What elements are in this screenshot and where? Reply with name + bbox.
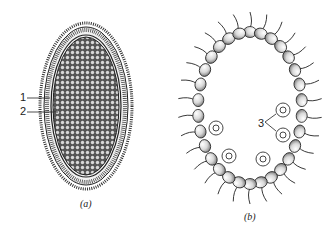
flagellated-cell (194, 77, 208, 92)
flagellum (283, 33, 295, 44)
flagellum (178, 98, 194, 100)
flagellum (273, 22, 282, 35)
flagellated-cell (293, 124, 307, 139)
caption-a: (a) (80, 198, 92, 210)
flagellum (218, 181, 227, 194)
daughter-colony (256, 152, 270, 166)
flagellum (194, 161, 208, 169)
flagellum (233, 186, 238, 201)
flagellum (306, 99, 322, 101)
flagellum (205, 33, 217, 44)
svg-text:1: 1 (20, 91, 26, 103)
flagellum (292, 47, 306, 55)
flagellated-cell (296, 109, 308, 123)
flagellated-cell (192, 93, 204, 107)
flagellum (218, 22, 227, 35)
flagellum (194, 47, 208, 55)
flagellum (299, 63, 314, 69)
flagellum (262, 15, 267, 30)
flagellum (283, 172, 295, 183)
flagellum (299, 147, 314, 153)
flagellum (303, 80, 319, 84)
svg-text:2: 2 (20, 105, 26, 117)
flagellum (273, 181, 282, 194)
caption-b: (b) (244, 211, 256, 223)
daughter-colony (276, 103, 290, 117)
label-3: 3 (258, 114, 276, 131)
flagellated-cell (192, 109, 204, 123)
flagellated-cell (194, 124, 208, 139)
colony-interior (53, 37, 119, 175)
flagellum (233, 15, 238, 30)
daughter-colony (209, 121, 223, 135)
flagellum (249, 188, 251, 204)
panel-a: 1 2 (a) (20, 23, 132, 210)
flagellum (250, 12, 252, 28)
flagellum (186, 63, 201, 69)
figure-diagram: 1 2 (a) 3 (b) (0, 0, 336, 229)
daughter-colony (276, 128, 290, 142)
flagellum (303, 132, 319, 136)
flagellated-cell (287, 62, 302, 78)
flagellum (205, 172, 217, 183)
flagellum (181, 132, 197, 136)
daughter-colony (222, 149, 236, 163)
flagellum (306, 116, 322, 118)
flagellated-cell (296, 93, 308, 107)
flagellum (181, 80, 197, 84)
flagellated-cell (293, 77, 307, 92)
flagellated-cell (197, 138, 212, 154)
flagellum (178, 115, 194, 117)
flagellum (262, 186, 267, 201)
flagellum (292, 161, 306, 169)
panel-b (178, 12, 321, 204)
flagellated-cell (197, 62, 212, 78)
flagellum (186, 147, 201, 153)
flagellated-cell (287, 138, 302, 154)
daughter-colonies (209, 103, 290, 166)
svg-text:3: 3 (258, 117, 264, 129)
